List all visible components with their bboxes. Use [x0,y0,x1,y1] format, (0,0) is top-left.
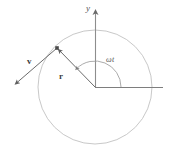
circular-motion-figure: y v r ωt [0,0,171,147]
position-vector-r [60,51,96,88]
figure-canvas [0,0,171,147]
angle-arc [77,61,121,87]
position-vector-label: r [59,72,63,81]
velocity-vector-label: v [27,57,32,66]
angle-label: ωt [106,56,115,64]
particle-marker [55,46,59,50]
y-axis-label: y [86,4,90,13]
velocity-vector-v [17,48,58,83]
